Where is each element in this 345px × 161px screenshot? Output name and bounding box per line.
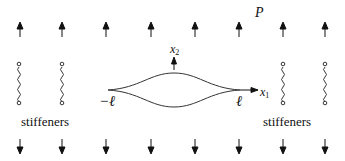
x1-axis-label: x1 <box>260 86 269 100</box>
arrow-up-icon <box>280 22 286 37</box>
bottom-load-arrows <box>17 139 328 154</box>
arrow-down-icon <box>17 139 23 154</box>
arrow-down-icon <box>103 139 109 154</box>
left-crack-tip-label: −ℓ <box>99 94 115 109</box>
arrow-up-icon <box>192 22 198 37</box>
x2-axis-label: x2 <box>170 43 179 57</box>
left-stiffeners-label: stiffeners <box>21 115 69 128</box>
arrow-down-icon <box>280 139 286 154</box>
arrow-down-icon <box>192 139 198 154</box>
arrow-up-icon <box>59 22 65 37</box>
arrow-up-icon <box>148 22 154 37</box>
arrow-down-icon <box>59 139 65 154</box>
spring-icon <box>323 62 327 105</box>
diagram-graphics <box>0 0 345 161</box>
spring-icon <box>281 62 285 105</box>
crack-stiffener-diagram: P x2 x1 −ℓ ℓ stiffeners stiffeners <box>0 0 345 161</box>
arrow-up-icon <box>103 22 109 37</box>
right-stiffeners-label: stiffeners <box>263 115 311 128</box>
load-label: P <box>255 6 264 20</box>
arrow-down-icon <box>236 139 242 154</box>
top-load-arrows <box>17 22 328 37</box>
spring-icon <box>60 62 64 105</box>
arrow-up-icon <box>236 22 242 37</box>
x2-axis-arrow-icon <box>172 57 177 70</box>
spring-icon <box>17 62 21 105</box>
arrow-down-icon <box>322 139 328 154</box>
arrow-up-icon <box>17 22 23 37</box>
stiffener-springs <box>17 62 327 105</box>
x1-axis-arrow-icon <box>240 88 258 93</box>
right-crack-tip-label: ℓ <box>236 94 242 109</box>
arrow-up-icon <box>322 22 328 37</box>
arrow-down-icon <box>148 139 154 154</box>
crack-shape <box>108 73 240 107</box>
